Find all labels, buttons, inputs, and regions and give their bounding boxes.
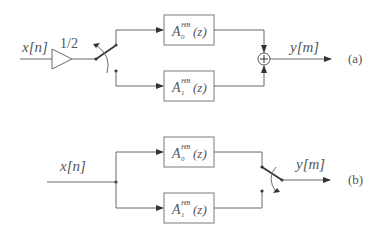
branch-lower-a	[116, 71, 163, 86]
switch-rotation-arc-a	[96, 45, 108, 73]
output-label-a: y[m]	[288, 39, 319, 55]
svg-text:0: 0	[181, 33, 185, 41]
svg-text:(z): (z)	[193, 202, 207, 217]
upper-to-adder-line	[214, 30, 264, 52]
gain-label: 1/2	[60, 36, 78, 51]
output-label-b: y[m]	[294, 156, 325, 172]
branch-upper-b	[116, 152, 163, 182]
switch-arm-a	[96, 46, 115, 59]
svg-text:(z): (z)	[193, 24, 207, 39]
diagram-a: x[n] 1/2 A 0 HB (z) A 1 HB (z)	[20, 15, 362, 101]
svg-text:1: 1	[181, 211, 185, 219]
diagram-b: x[n] A 0 HB (z) A 1 HB (z) y[m] (b)	[47, 137, 363, 223]
upper-to-switch-line	[214, 152, 262, 167]
switch-rotation-arc-b	[271, 167, 276, 192]
svg-text:HB: HB	[180, 21, 191, 29]
svg-text:(z): (z)	[193, 80, 207, 95]
svg-text:1: 1	[181, 89, 185, 97]
filter-a0-symbol: A	[171, 24, 181, 39]
branch-lower-b	[116, 182, 163, 208]
subfigure-label-a: (a)	[348, 51, 362, 66]
subfigure-label-b: (b)	[348, 172, 363, 187]
filter-b0-symbol: A	[171, 146, 181, 161]
lower-to-switch-line	[214, 191, 262, 208]
filter-b1-symbol: A	[171, 202, 181, 217]
input-label-a: x[n]	[21, 39, 48, 55]
svg-text:HB: HB	[180, 77, 191, 85]
gain-amplifier-icon	[52, 49, 72, 69]
input-label-b: x[n]	[59, 158, 86, 174]
svg-text:0: 0	[181, 155, 185, 163]
svg-text:(z): (z)	[193, 146, 207, 161]
filter-a1-symbol: A	[171, 80, 181, 95]
svg-text:HB: HB	[180, 143, 191, 151]
branch-upper-a	[116, 30, 163, 45]
lower-to-adder-line	[214, 66, 264, 86]
diagram-canvas: x[n] 1/2 A 0 HB (z) A 1 HB (z)	[0, 0, 383, 236]
svg-text:HB: HB	[180, 199, 191, 207]
